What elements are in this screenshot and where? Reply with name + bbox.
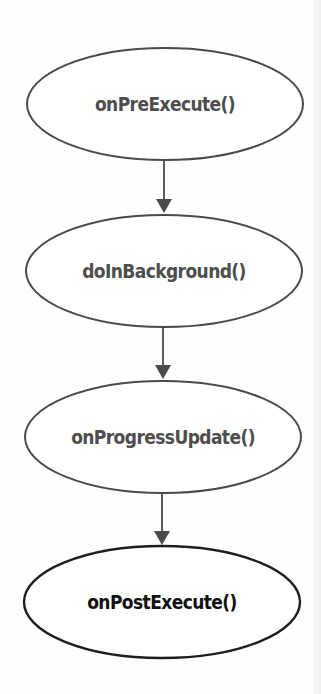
edge-arrow xyxy=(154,493,170,545)
node-do-in-background: doInBackground() xyxy=(26,215,302,327)
edge-arrow xyxy=(155,327,171,379)
arrow-down-icon xyxy=(154,531,170,545)
diagram-canvas: onPreExecute() doInBackground() onProgre… xyxy=(0,0,321,694)
arrow-down-icon xyxy=(156,199,172,213)
node-label: onPostExecute() xyxy=(87,591,237,613)
node-on-pre-execute: onPreExecute() xyxy=(27,48,303,160)
arrow-down-icon xyxy=(155,365,171,379)
node-label: onPreExecute() xyxy=(95,93,235,115)
node-label: onProgressUpdate() xyxy=(71,426,255,448)
node-on-progress-update: onProgressUpdate() xyxy=(25,381,301,493)
edge-arrow xyxy=(156,160,172,213)
node-on-post-execute: onPostExecute() xyxy=(24,546,300,658)
node-label: doInBackground() xyxy=(82,260,246,282)
asynctask-lifecycle-diagram: onPreExecute() doInBackground() onProgre… xyxy=(0,0,321,694)
